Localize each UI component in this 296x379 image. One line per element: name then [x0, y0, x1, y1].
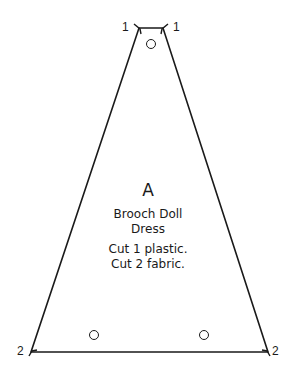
cut-instruction-2: Cut 2 fabric. [0, 257, 296, 272]
cut-instruction-1: Cut 1 plastic. [0, 242, 296, 257]
piece-name-line1: Brooch Doll [0, 207, 296, 222]
marker-label-top-left: 1 [122, 21, 129, 33]
marker-label-top-right: 1 [173, 21, 180, 33]
arrow-bottom-right-icon [262, 350, 270, 356]
marker-label-bottom-left: 2 [17, 345, 24, 357]
marking-circle-top [147, 40, 156, 49]
marker-label-bottom-right: 2 [272, 345, 279, 357]
piece-letter: A [0, 180, 296, 200]
marking-circle-bottom-left [90, 331, 99, 340]
arrow-bottom-left-icon [29, 350, 37, 356]
marking-circle-bottom-right [200, 331, 209, 340]
piece-name-line2: Dress [0, 222, 296, 237]
